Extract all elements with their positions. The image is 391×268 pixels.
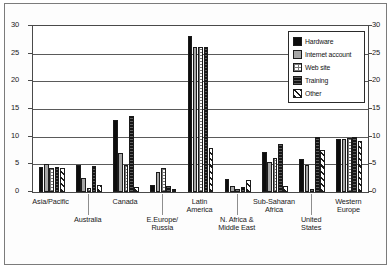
bar-2-1 bbox=[118, 153, 123, 192]
bar-6-4 bbox=[283, 186, 288, 192]
bar-3-1 bbox=[156, 172, 161, 192]
legend-label-2: Web site bbox=[305, 64, 330, 71]
bar-6-0 bbox=[262, 152, 267, 192]
bar-4-1 bbox=[193, 47, 198, 192]
legend-item-other[interactable]: Other bbox=[293, 87, 364, 100]
legend-label-0: Hardware bbox=[305, 38, 333, 45]
bar-1-2 bbox=[87, 188, 92, 192]
bar-8-3 bbox=[352, 137, 357, 192]
bar-3-3 bbox=[166, 186, 171, 192]
y-tick-label-left-0: 0 bbox=[0, 187, 19, 195]
legend-item-internet-account[interactable]: Internet account bbox=[293, 48, 364, 61]
x-category-label-6: Sub-Saharan Africa bbox=[246, 198, 302, 215]
y-tick-label-right-10: 10 bbox=[372, 132, 391, 140]
swatch-web-site-icon bbox=[293, 63, 302, 72]
y-tick-label-left-15: 15 bbox=[0, 104, 19, 112]
legend-item-training[interactable]: Training bbox=[293, 74, 364, 87]
y-tick-label-right-15: 15 bbox=[372, 104, 391, 112]
y-tick-label-left-5: 5 bbox=[0, 159, 19, 167]
swatch-training-icon bbox=[293, 76, 302, 85]
bar-0-0 bbox=[39, 167, 44, 192]
bar-5-1 bbox=[230, 186, 235, 192]
y-tick-label-right-25: 25 bbox=[372, 49, 391, 57]
swatch-hardware-icon bbox=[293, 37, 302, 46]
swatch-internet-account-icon bbox=[293, 50, 302, 59]
bar-3-4 bbox=[172, 189, 177, 192]
bar-7-2 bbox=[310, 189, 315, 192]
legend-label-1: Internet account bbox=[305, 51, 351, 58]
y-tick-label-left-25: 25 bbox=[0, 49, 19, 57]
bar-8-2 bbox=[347, 138, 352, 192]
bar-3-2 bbox=[161, 168, 166, 192]
bar-0-1 bbox=[44, 164, 49, 192]
legend-item-web-site[interactable]: Web site bbox=[293, 61, 364, 74]
x-category-label-0: Asia/Pacific bbox=[23, 198, 79, 206]
bar-1-4 bbox=[97, 185, 102, 192]
x-category-label-5: N. Africa & Middle East bbox=[209, 216, 265, 233]
bar-5-3 bbox=[241, 187, 246, 192]
bar-7-1 bbox=[305, 165, 310, 192]
bar-0-2 bbox=[49, 168, 54, 192]
bar-1-1 bbox=[81, 178, 86, 192]
bar-6-3 bbox=[278, 144, 283, 192]
bar-5-2 bbox=[235, 189, 240, 192]
x-category-label-1: Australia bbox=[60, 216, 116, 224]
x-label-leader-7 bbox=[311, 194, 312, 215]
bar-2-4 bbox=[134, 187, 139, 192]
y-tick-label-right-20: 20 bbox=[372, 76, 391, 84]
chart-legend: HardwareInternet accountWeb siteTraining… bbox=[288, 31, 365, 103]
y-tick-label-left-30: 30 bbox=[0, 21, 19, 29]
bar-8-1 bbox=[342, 139, 347, 192]
x-category-label-3: E.Europe/ Russia bbox=[134, 216, 190, 233]
bar-2-2 bbox=[124, 165, 129, 192]
y-tick-label-right-30: 30 bbox=[372, 21, 391, 29]
bar-8-4 bbox=[358, 141, 363, 192]
legend-label-4: Other bbox=[305, 90, 321, 97]
bar-7-0 bbox=[299, 159, 304, 192]
y-tick-label-right-5: 5 bbox=[372, 159, 391, 167]
bar-4-0 bbox=[188, 36, 193, 192]
bar-1-0 bbox=[76, 165, 81, 192]
bar-3-0 bbox=[150, 185, 155, 192]
bar-6-1 bbox=[267, 162, 272, 192]
figure-frame: 051015202530 051015202530 Asia/PacificAu… bbox=[4, 3, 387, 265]
y-tick-label-left-20: 20 bbox=[0, 76, 19, 84]
y-tick-label-right-0: 0 bbox=[372, 187, 391, 195]
bar-7-4 bbox=[320, 150, 325, 192]
bar-2-0 bbox=[113, 120, 118, 192]
y-tick-label-left-10: 10 bbox=[0, 132, 19, 140]
bar-4-4 bbox=[209, 148, 214, 192]
bar-6-2 bbox=[273, 158, 278, 192]
x-label-leader-5 bbox=[237, 194, 238, 215]
bar-5-4 bbox=[246, 180, 251, 192]
legend-label-3: Training bbox=[305, 77, 328, 84]
x-category-label-2: Canada bbox=[97, 198, 153, 206]
bar-0-4 bbox=[60, 168, 65, 192]
bar-0-3 bbox=[55, 167, 60, 192]
bar-4-2 bbox=[198, 47, 203, 192]
bar-4-3 bbox=[204, 47, 209, 192]
x-label-leader-1 bbox=[88, 194, 89, 215]
x-category-label-4: Latin America bbox=[172, 198, 228, 215]
x-label-leader-3 bbox=[162, 194, 163, 215]
swatch-other-icon bbox=[293, 89, 302, 98]
bar-5-0 bbox=[225, 179, 230, 192]
bar-8-0 bbox=[336, 139, 341, 192]
bar-1-3 bbox=[92, 166, 97, 192]
bar-7-3 bbox=[315, 137, 320, 192]
legend-item-hardware[interactable]: Hardware bbox=[293, 35, 364, 48]
bar-2-3 bbox=[129, 116, 134, 192]
x-category-label-8: Western Europe bbox=[320, 198, 376, 215]
x-category-label-7: United States bbox=[283, 216, 339, 233]
